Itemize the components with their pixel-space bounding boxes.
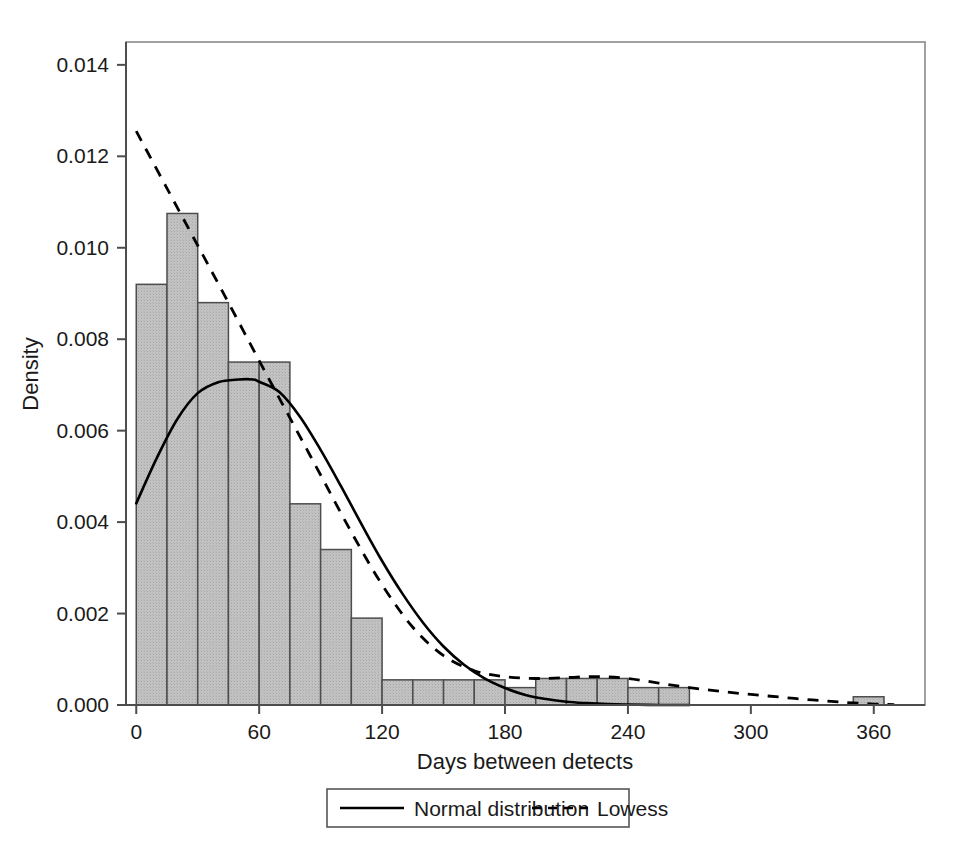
y-tick-label: 0.014 [56,53,109,76]
legend-label-normal-distribution: Normal distribution [414,797,589,820]
y-axis-title: Density [18,337,43,410]
histogram-bar [198,303,229,705]
histogram-bar [413,680,444,705]
histogram-bar [659,688,690,705]
histogram-bar [444,680,475,705]
chart-legend: Normal distribution Lowess [327,789,668,827]
x-tick-label: 180 [487,720,522,743]
histogram-bar [321,550,352,705]
x-tick-label: 60 [247,720,270,743]
y-tick-label: 0.004 [56,510,109,533]
legend-label-lowess: Lowess [597,797,668,820]
density-histogram-figure: 060120180240300360 0.0000.0020.0040.0060… [0,0,956,851]
histogram-bar [474,680,505,705]
histogram-bar [351,618,382,705]
histogram-bar [167,213,198,705]
y-tick-label: 0.002 [56,602,109,625]
x-tick-label: 120 [365,720,400,743]
x-tick-label: 240 [610,720,645,743]
y-tick-label: 0.008 [56,327,109,350]
x-tick-label: 0 [130,720,142,743]
histogram-bar [290,504,321,705]
chart-canvas: 060120180240300360 0.0000.0020.0040.0060… [0,0,956,851]
y-tick-label: 0.000 [56,693,109,716]
histogram-bar [597,678,628,705]
x-tick-label: 360 [856,720,891,743]
histogram-bar [228,362,259,705]
x-tick-label: 300 [733,720,768,743]
y-tick-label: 0.006 [56,419,109,442]
histogram-bar [628,688,659,705]
x-axis-title: Days between detects [417,749,633,774]
histogram-bar [259,362,290,705]
y-tick-label: 0.010 [56,236,109,259]
histogram-bar [382,680,413,705]
y-tick-label: 0.012 [56,144,109,167]
